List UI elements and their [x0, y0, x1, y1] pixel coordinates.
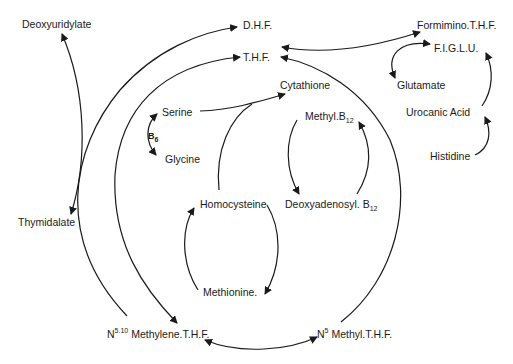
- arrow-histidine-to-urocanic: [475, 117, 489, 155]
- arrow-thf-to-methylene-thf: [115, 57, 240, 323]
- arrow-methylene-methyl-thf: [205, 337, 317, 349]
- node-formimino-thf: Formimino.T.H.F.: [417, 19, 496, 31]
- node-deoxyuridylate: Deoxyuridylate: [22, 18, 91, 30]
- node-urocanic-acid: Urocanic Acid: [406, 106, 470, 118]
- node-methionine: Methionine.: [203, 286, 257, 298]
- node-glycine: Glycine: [165, 153, 200, 165]
- arrow-serine-to-cytathione: [200, 94, 285, 111]
- node-serine: Serine: [162, 106, 192, 118]
- node-thf: T.H.F.: [243, 51, 270, 63]
- node-dhf: D.H.F.: [243, 19, 272, 31]
- node-methyl-b12: Methyl.B12: [305, 110, 354, 127]
- node-histidine: Histidine: [430, 150, 470, 162]
- arrow-methyl-thf-to-thf: [281, 57, 401, 322]
- node-homocysteine: Homocysteine: [200, 198, 267, 210]
- node-deoxyadenosyl-b12: Deoxyadenosyl. B12: [285, 198, 377, 215]
- arrow-deoxyadenosyl-to-methylb12: [357, 122, 369, 194]
- label-b6-cofactor: B6: [148, 130, 158, 146]
- arrow-homocysteine-to-methionine: [265, 205, 278, 294]
- arrow-methylene-thf-to-dhf: [78, 27, 237, 316]
- arrow-methylb12-to-deoxyadenosyl: [288, 120, 299, 194]
- arrow-thymidalate-deoxyuridylate: [62, 34, 82, 214]
- arrow-figlu-glutamate: [392, 43, 430, 78]
- arrow-methionine-to-homocysteine: [185, 208, 198, 290]
- node-thymidalate: Thymidalate: [18, 216, 75, 228]
- node-figlu: F.I.G.L.U.: [434, 42, 478, 54]
- arrow-urocanic-to-figlu: [482, 53, 491, 106]
- node-methylene-thf: N5.10 Methylene.T.H.F.: [107, 325, 209, 340]
- node-cytathione: Cytathione: [280, 79, 330, 91]
- folate-metabolism-diagram: Deoxyuridylate D.H.F. T.H.F. Formimino.T…: [0, 0, 513, 364]
- node-methyl-thf: N5 Methyl.T.H.F.: [317, 325, 392, 340]
- arrow-formimino-thf-to-thf: [282, 32, 420, 50]
- node-glutamate: Glutamate: [397, 79, 445, 91]
- arrow-homocysteine-to-cytathione: [218, 104, 252, 190]
